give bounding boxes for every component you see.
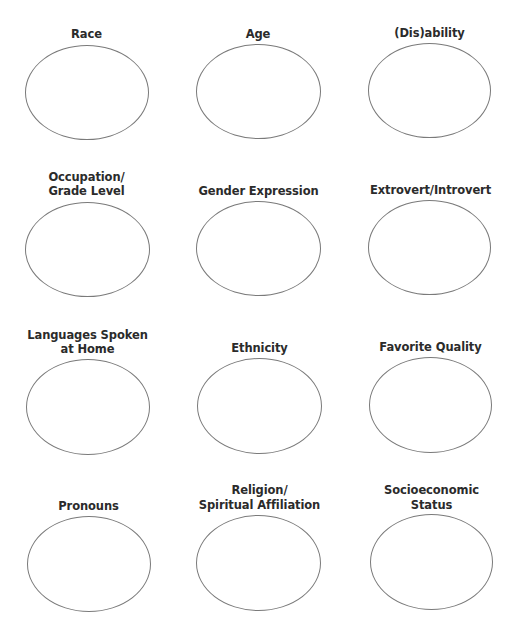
- answer-ellipse-disability[interactable]: [368, 43, 491, 138]
- label-extrovert-introvert: Extrovert/Introvert: [358, 183, 503, 197]
- answer-ellipse-pronouns[interactable]: [27, 516, 151, 612]
- answer-ellipse-extrovert-introvert[interactable]: [368, 200, 491, 295]
- answer-ellipse-religion[interactable]: [196, 515, 321, 611]
- label-pronouns: Pronouns: [16, 499, 161, 513]
- label-occupation-line2: Grade Level: [15, 184, 158, 198]
- label-race: Race: [15, 27, 158, 41]
- label-languages-line2: at Home: [15, 342, 160, 356]
- label-socioeconomic-line1: Socioeconomic: [359, 483, 504, 497]
- answer-ellipse-ethnicity[interactable]: [197, 358, 322, 454]
- label-ethnicity: Ethnicity: [187, 341, 332, 355]
- label-occupation-line1: Occupation/: [15, 170, 158, 184]
- label-disability: (Dis)ability: [358, 26, 501, 40]
- answer-ellipse-gender-expression[interactable]: [196, 201, 321, 296]
- answer-ellipse-age[interactable]: [196, 44, 321, 139]
- answer-ellipse-favorite-quality[interactable]: [369, 357, 492, 453]
- label-gender-expression: Gender Expression: [186, 184, 331, 198]
- label-socioeconomic-line2: Status: [359, 498, 504, 512]
- label-languages-line1: Languages Spoken: [15, 328, 160, 342]
- label-religion-line1: Religion/: [186, 483, 333, 497]
- label-religion-line2: Spiritual Affiliation: [186, 498, 333, 512]
- answer-ellipse-occupation[interactable]: [25, 202, 150, 297]
- label-age: Age: [186, 27, 330, 41]
- label-favorite-quality: Favorite Quality: [358, 340, 503, 354]
- answer-ellipse-race[interactable]: [25, 45, 149, 140]
- answer-ellipse-socioeconomic[interactable]: [370, 514, 493, 610]
- answer-ellipse-languages[interactable]: [26, 359, 150, 455]
